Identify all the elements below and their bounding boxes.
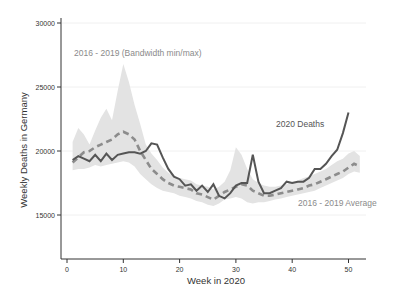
- y-tick-label: 20000: [36, 148, 56, 155]
- x-tick-label: 0: [65, 266, 69, 273]
- y-axis-ticks: 15000200002500030000: [36, 20, 61, 219]
- average-annotation: 2016 - 2019 Average: [298, 198, 377, 208]
- y-tick-label: 30000: [36, 20, 56, 27]
- y-tick-label: 15000: [36, 212, 56, 219]
- x-axis-ticks: 01020304050: [65, 259, 352, 273]
- deaths-2020-annotation: 2020 Deaths: [276, 119, 324, 129]
- x-tick-label: 10: [119, 266, 127, 273]
- y-tick-label: 25000: [36, 84, 56, 91]
- x-tick-label: 40: [288, 266, 296, 273]
- x-axis-title: Week in 2020: [187, 275, 245, 286]
- y-axis-title: Weekly Deaths in Germany: [18, 92, 29, 208]
- x-tick-label: 50: [345, 266, 353, 273]
- x-tick-label: 30: [232, 266, 240, 273]
- weekly-deaths-chart: 15000200002500030000 01020304050 Week in…: [0, 0, 394, 300]
- bandwidth-annotation: 2016 - 2019 (Bandwidth min/max): [74, 48, 202, 58]
- x-tick-label: 20: [176, 266, 184, 273]
